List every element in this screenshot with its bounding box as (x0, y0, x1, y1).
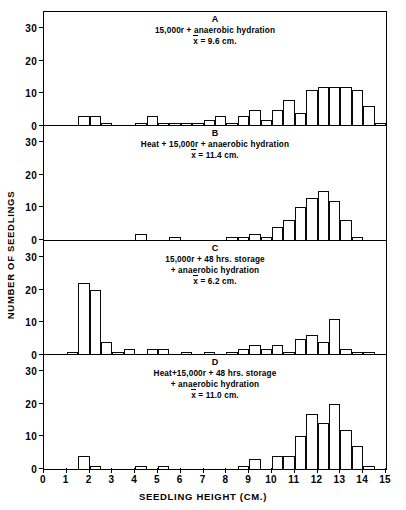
histogram-bar (318, 191, 329, 240)
mean-value-text: = 9.6 cm. (198, 37, 237, 46)
x-axis-label: SEEDLING HEIGHT (CM.) (0, 491, 406, 502)
x-tick-11 (294, 468, 295, 473)
y-axis-label: NUMBER OF SEEDLINGS (5, 191, 16, 319)
mean-x-bar-symbol: x (193, 276, 198, 287)
x-tick-label-15: 15 (379, 474, 391, 485)
panel-caption-line2: + anaerobic hydration (44, 265, 386, 276)
histogram-bar (306, 198, 317, 240)
histogram-bar (363, 106, 374, 126)
panel-letter: A (44, 14, 386, 25)
histogram-bar (283, 220, 294, 240)
y-tick-10 (39, 321, 44, 322)
plot-area-d: 0102030DHeat+15,000r + 48 hrs. storage+ … (44, 355, 386, 469)
y-tick-label-30: 30 (25, 366, 37, 377)
histogram-bar (340, 87, 351, 126)
panel-mean-line: x = 6.2 cm. (44, 276, 386, 287)
histogram-bar (318, 423, 329, 469)
histogram-bar (295, 339, 306, 355)
y-tick-label-10: 10 (25, 431, 37, 442)
x-tick-label-13: 13 (334, 474, 346, 485)
y-tick-label-10: 10 (25, 317, 37, 328)
histogram-bar (329, 404, 340, 469)
y-tick-30 (39, 141, 44, 142)
x-tick-label-10: 10 (265, 474, 277, 485)
panel-letter: C (44, 243, 386, 254)
x-tick-label-8: 8 (222, 474, 228, 485)
histogram-bar (90, 290, 101, 355)
panel-caption-line1: 15,000r + 48 hrs. storage (44, 254, 386, 265)
y-tick-label-0: 0 (31, 464, 37, 475)
x-tick-1 (66, 468, 67, 473)
histogram-bar (329, 87, 340, 126)
histogram-bar (329, 201, 340, 240)
x-tick-label-11: 11 (288, 474, 299, 485)
x-tick-12 (317, 468, 318, 473)
y-tick-20 (39, 289, 44, 290)
mean-value-text: = 11.0 cm. (196, 391, 239, 400)
x-tick-15 (385, 468, 386, 473)
x-tick-label-6: 6 (177, 474, 183, 485)
x-tick-label-1: 1 (63, 474, 69, 485)
y-tick-20 (39, 60, 44, 61)
y-tick-10 (39, 435, 44, 436)
x-tick-label-5: 5 (154, 474, 160, 485)
x-tick-2 (89, 468, 90, 473)
panel-caption-c: C15,000r + 48 hrs. storage+ anaerobic hy… (44, 243, 386, 287)
x-tick-14 (362, 468, 363, 473)
y-tick-20 (39, 403, 44, 404)
histogram-bar (318, 87, 329, 126)
histogram-bar (283, 100, 294, 126)
x-tick-label-0: 0 (40, 474, 46, 485)
y-tick-label-30: 30 (25, 137, 37, 148)
y-tick-label-20: 20 (25, 169, 37, 180)
y-tick-label-20: 20 (25, 284, 37, 295)
y-tick-label-20: 20 (25, 55, 37, 66)
y-tick-label-20: 20 (25, 398, 37, 409)
histogram-bar (306, 414, 317, 469)
x-tick-4 (134, 468, 135, 473)
histogram-bar (272, 227, 283, 240)
x-tick-3 (111, 468, 112, 473)
y-tick-30 (39, 256, 44, 257)
y-axis-label-container: NUMBER OF SEEDLINGS (2, 155, 18, 355)
panel-caption-line2: + anaerobic hydration (44, 379, 386, 390)
x-tick-label-7: 7 (200, 474, 206, 485)
histogram-bar (272, 110, 283, 126)
panel-caption-line1: Heat + 15,000r + anaerobic hydration (44, 139, 386, 150)
mean-value-text: = 6.2 cm. (198, 277, 237, 286)
x-tick-6 (180, 468, 181, 473)
histogram-bar (352, 90, 363, 126)
histogram-bar (249, 110, 260, 126)
x-axis: 0123456789101112131415 (43, 468, 385, 490)
panel-a: 0102030A15,000r + anaerobic hydrationx =… (43, 11, 387, 127)
y-tick-label-30: 30 (25, 23, 37, 34)
figure-histogram-panels: NUMBER OF SEEDLINGS 0102030A15,000r + an… (0, 0, 406, 510)
panel-letter: D (44, 357, 386, 368)
histogram-bar (78, 283, 89, 355)
histogram-bar (295, 436, 306, 469)
panel-mean-line: x = 11.4 cm. (44, 150, 386, 161)
panel-d: 0102030DHeat+15,000r + 48 hrs. storage+ … (43, 354, 387, 470)
y-tick-30 (39, 370, 44, 371)
histogram-bar (329, 319, 340, 355)
histogram-bar (295, 207, 306, 240)
plot-area-b: 0102030BHeat + 15,000r + anaerobic hydra… (44, 126, 386, 240)
x-tick-label-3: 3 (108, 474, 114, 485)
panel-b: 0102030BHeat + 15,000r + anaerobic hydra… (43, 125, 387, 241)
panel-c: 0102030C15,000r + 48 hrs. storage+ anaer… (43, 240, 387, 356)
x-tick-0 (43, 468, 44, 473)
y-tick-label-0: 0 (31, 235, 37, 246)
histogram-bar (340, 220, 351, 240)
x-tick-label-12: 12 (311, 474, 323, 485)
y-tick-20 (39, 174, 44, 175)
x-tick-8 (225, 468, 226, 473)
x-tick-label-4: 4 (131, 474, 137, 485)
x-tick-5 (157, 468, 158, 473)
x-tick-label-9: 9 (245, 474, 251, 485)
histogram-bar (352, 446, 363, 469)
panel-mean-line: x = 9.6 cm. (44, 36, 386, 47)
y-tick-10 (39, 206, 44, 207)
panel-caption-line1: Heat+15,000r + 48 hrs. storage (44, 368, 386, 379)
x-tick-label-2: 2 (86, 474, 92, 485)
x-tick-9 (248, 468, 249, 473)
